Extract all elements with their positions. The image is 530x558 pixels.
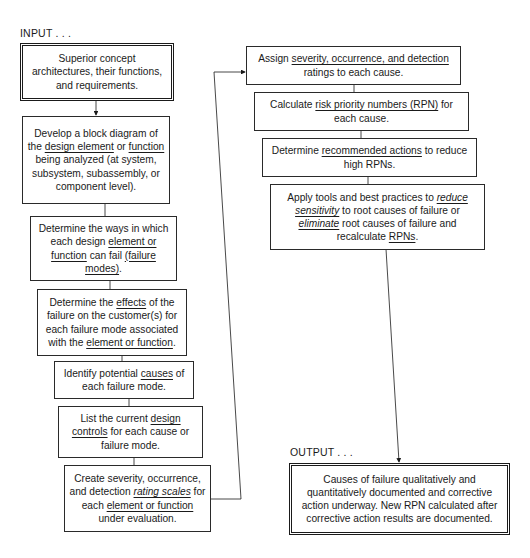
- input-box: Superior concept architectures, their fu…: [20, 43, 174, 101]
- block-diagram-step: Develop a block diagram of the design el…: [22, 116, 170, 204]
- apply-tools-step: Apply tools and best practices to reduce…: [270, 184, 485, 250]
- step-text: List the current design controls for eac…: [63, 412, 198, 452]
- output-label: OUTPUT . . .: [290, 446, 353, 458]
- step-text: Superior concept architectures, their fu…: [27, 52, 167, 92]
- assign-ratings-step: Assign severity, occurrence, and detecti…: [246, 46, 461, 85]
- step-text: Create severity, occurrence, and detecti…: [69, 472, 206, 525]
- rating-scales-step: Create severity, occurrence, and detecti…: [64, 465, 211, 532]
- output-box: Causes of failure qualitatively and quan…: [289, 463, 510, 535]
- effects-step: Determine the effects of the failure on …: [37, 289, 187, 356]
- design-controls-step: List the current design controls for eac…: [58, 406, 203, 458]
- step-text: Determine the ways in which each design …: [35, 222, 172, 275]
- calculate-rpn-step: Calculate risk priority numbers (RPN) fo…: [254, 92, 469, 131]
- step-text: Apply tools and best practices to reduce…: [275, 191, 480, 244]
- step-text: Identify potential causes of each failur…: [59, 367, 189, 393]
- step-text: Develop a block diagram of the design el…: [27, 127, 165, 193]
- step-text: Determine the effects of the failure on …: [42, 296, 182, 349]
- recommended-actions-step: Determine recommended actions to reduce …: [262, 138, 477, 177]
- causes-step: Identify potential causes of each failur…: [54, 361, 194, 399]
- input-label: INPUT . . .: [20, 27, 71, 39]
- step-text: Assign severity, occurrence, and detecti…: [251, 52, 456, 78]
- step-text: Causes of failure qualitatively and quan…: [296, 473, 503, 526]
- step-text: Determine recommended actions to reduce …: [267, 144, 472, 170]
- failure-modes-step: Determine the ways in which each design …: [30, 216, 177, 281]
- step-text: Calculate risk priority numbers (RPN) fo…: [259, 98, 464, 124]
